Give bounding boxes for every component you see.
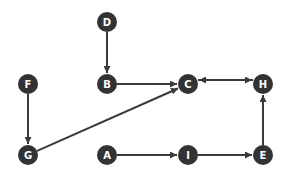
node-label: C	[184, 79, 191, 90]
edge-g-to-c	[37, 88, 178, 150]
node-label: B	[103, 79, 111, 90]
node-c: C	[178, 74, 198, 94]
node-a: A	[97, 145, 117, 165]
node-label: A	[103, 150, 111, 161]
node-label: D	[103, 17, 111, 28]
node-label: H	[259, 79, 267, 90]
node-label: I	[186, 150, 190, 161]
node-e: E	[253, 145, 273, 165]
node-b: B	[97, 74, 117, 94]
node-label: E	[260, 150, 267, 161]
edges-layer	[28, 32, 263, 155]
node-d: D	[97, 12, 117, 32]
node-i: I	[178, 145, 198, 165]
node-g: G	[18, 145, 38, 165]
node-label: G	[24, 150, 32, 161]
node-f: F	[18, 74, 38, 94]
directed-graph: DBCHFGAIE	[0, 0, 295, 177]
node-h: H	[253, 74, 273, 94]
node-label: F	[25, 79, 32, 90]
